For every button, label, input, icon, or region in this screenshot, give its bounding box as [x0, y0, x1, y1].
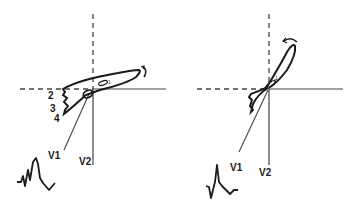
v1-lead-axis	[239, 90, 268, 152]
loop-label-1: 1	[275, 73, 278, 83]
arrowhead-icon	[141, 66, 144, 69]
left-loop-diagram	[0, 0, 177, 208]
loop-label-2: 2	[48, 91, 54, 101]
lead-label-v2: V2	[79, 157, 91, 167]
loop-label-4: 4	[54, 114, 60, 124]
qrs-loop	[249, 45, 295, 112]
v1-ecg-complex	[17, 158, 55, 190]
left-vector-loop-panel: 1 2 3 4 V1 V2	[0, 0, 177, 208]
loop-label-1: 1	[108, 77, 111, 87]
lead-label-v1: V1	[230, 163, 242, 173]
initial-vector-loop	[98, 80, 108, 87]
right-vector-loop-panel: 1 V1 V2	[177, 0, 354, 208]
counterclockwise-arrow-icon	[284, 39, 297, 42]
lead-label-v1: V1	[48, 151, 60, 161]
lead-label-v2: V2	[259, 168, 271, 178]
qrs-loop	[63, 70, 140, 114]
